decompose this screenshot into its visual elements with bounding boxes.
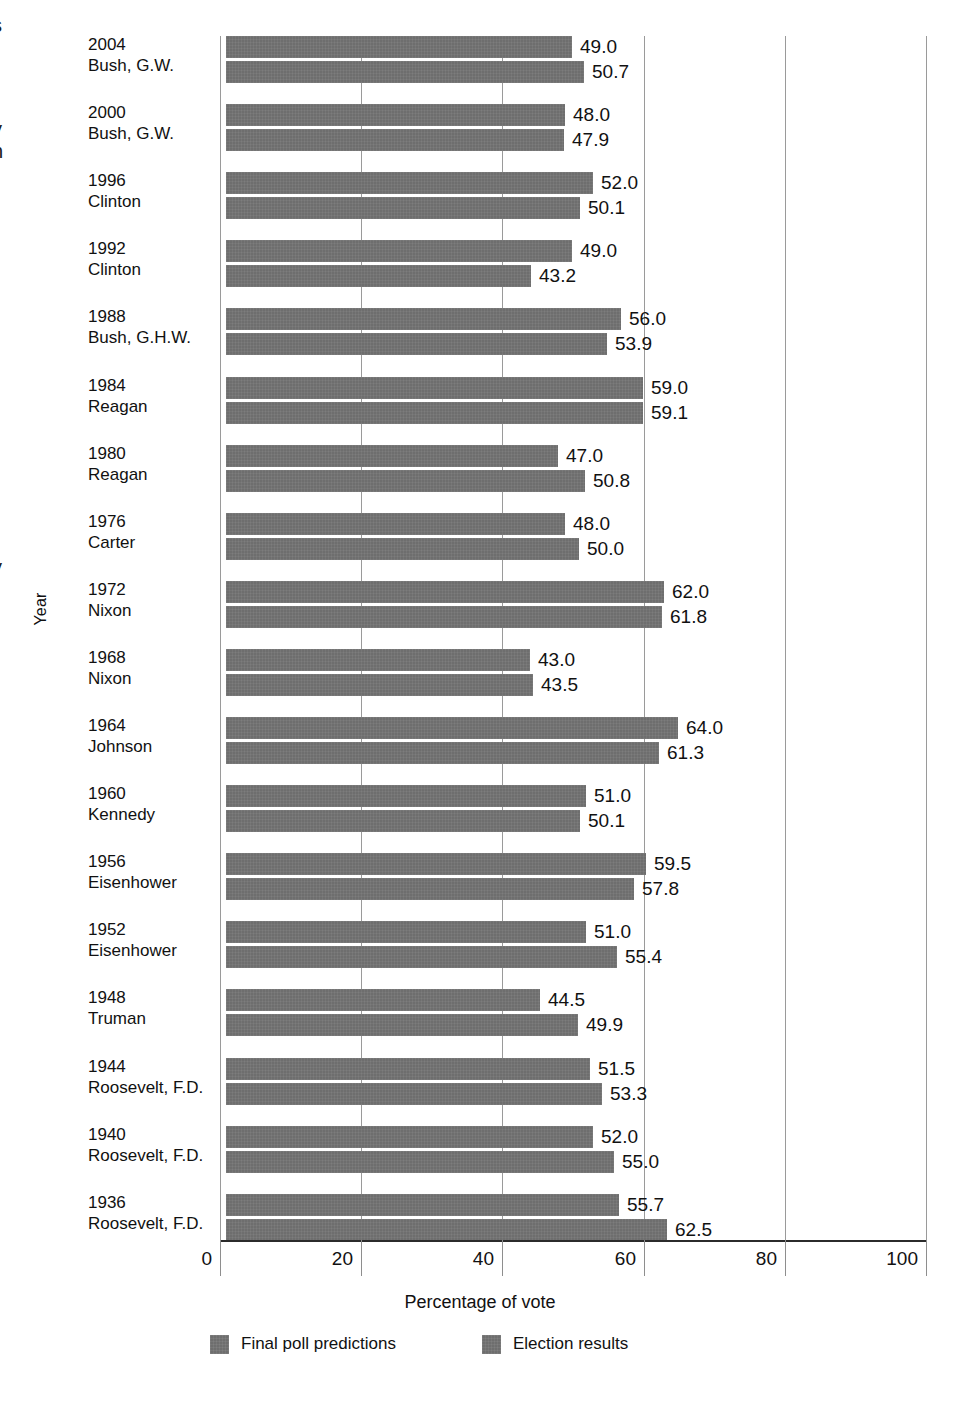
bar [226, 1014, 578, 1036]
bar [226, 308, 621, 330]
bar-value-label: 50.0 [587, 538, 624, 560]
x-tick-100 [926, 1240, 927, 1276]
bar-value-label: 49.9 [586, 1014, 623, 1036]
x-tick-label-20: 20 [293, 1248, 353, 1270]
category-president: Eisenhower [88, 940, 218, 961]
category-president: Nixon [88, 668, 218, 689]
category-president: Reagan [88, 396, 218, 417]
bar-value-label: 51.5 [598, 1058, 635, 1080]
gridline-0 [220, 36, 221, 1240]
bar-value-label: 53.9 [615, 333, 652, 355]
bar-value-label: 52.0 [601, 172, 638, 194]
bar [226, 1058, 590, 1080]
category-president: Carter [88, 532, 218, 553]
bar-value-label: 43.2 [539, 265, 576, 287]
bar [226, 581, 664, 603]
bar [226, 104, 565, 126]
bar-value-label: 56.0 [629, 308, 666, 330]
category-label: 1988Bush, G.H.W. [88, 306, 218, 348]
category-president: Roosevelt, F.D. [88, 1077, 218, 1098]
chart-legend: Final poll predictionsElection results [210, 1334, 810, 1354]
legend-label: Final poll predictions [241, 1334, 396, 1354]
category-year: 1960 [88, 783, 218, 804]
bar-value-label: 50.1 [588, 810, 625, 832]
category-year: 1980 [88, 443, 218, 464]
category-year: 1936 [88, 1192, 218, 1213]
category-president: Bush, G.W. [88, 55, 218, 76]
category-year: 1984 [88, 375, 218, 396]
category-label: 1956Eisenhower [88, 851, 218, 893]
category-year: 1976 [88, 511, 218, 532]
bar [226, 674, 533, 696]
category-year: 1988 [88, 306, 218, 327]
bar [226, 513, 565, 535]
bar-value-label: 62.5 [675, 1219, 712, 1241]
bar-value-label: 44.5 [548, 989, 585, 1011]
bar [226, 853, 646, 875]
category-president: Reagan [88, 464, 218, 485]
bar-value-label: 55.4 [625, 946, 662, 968]
category-year: 1968 [88, 647, 218, 668]
category-president: Johnson [88, 736, 218, 757]
bar-value-label: 50.1 [588, 197, 625, 219]
bar-value-label: 47.9 [572, 129, 609, 151]
x-tick-label-60: 60 [576, 1248, 636, 1270]
bar [226, 878, 634, 900]
bar [226, 470, 585, 492]
category-president: Roosevelt, F.D. [88, 1145, 218, 1166]
category-label: 2000Bush, G.W. [88, 102, 218, 144]
category-label: 1936Roosevelt, F.D. [88, 1192, 218, 1234]
category-label: 1976Carter [88, 511, 218, 553]
bar-value-label: 52.0 [601, 1126, 638, 1148]
bar-value-label: 50.7 [592, 61, 629, 83]
category-president: Eisenhower [88, 872, 218, 893]
bar [226, 445, 558, 467]
category-president: Roosevelt, F.D. [88, 1213, 218, 1234]
bar [226, 921, 586, 943]
category-year: 1948 [88, 987, 218, 1008]
bar [226, 129, 564, 151]
bar [226, 197, 580, 219]
bar [226, 377, 643, 399]
category-president: Clinton [88, 191, 218, 212]
bar-value-label: 49.0 [580, 36, 617, 58]
legend-label: Election results [513, 1334, 628, 1354]
category-year: 1952 [88, 919, 218, 940]
category-label: 1968Nixon [88, 647, 218, 689]
category-year: 1940 [88, 1124, 218, 1145]
bar-value-label: 61.3 [667, 742, 704, 764]
category-president: Kennedy [88, 804, 218, 825]
category-year: 2004 [88, 34, 218, 55]
bar-value-label: 59.1 [651, 402, 688, 424]
bar-value-label: 59.0 [651, 377, 688, 399]
category-president: Bush, G.W. [88, 123, 218, 144]
gridline-80 [785, 36, 786, 1240]
bar-value-label: 50.8 [593, 470, 630, 492]
category-year: 2000 [88, 102, 218, 123]
bar-value-label: 43.0 [538, 649, 575, 671]
x-tick-40 [502, 1240, 503, 1276]
x-tick-label-80: 80 [717, 1248, 777, 1270]
bar-value-label: 53.3 [610, 1083, 647, 1105]
x-tick-0 [220, 1240, 221, 1276]
x-tick-label-0: 0 [152, 1248, 212, 1270]
bar [226, 649, 530, 671]
category-label: 1980Reagan [88, 443, 218, 485]
x-axis-title: Percentage of vote [0, 1292, 960, 1313]
bar-value-label: 55.7 [627, 1194, 664, 1216]
category-year: 1964 [88, 715, 218, 736]
bar-chart-plot-area: 49.050.748.047.952.050.149.043.256.053.9… [0, 0, 960, 1402]
bar-value-label: 48.0 [573, 513, 610, 535]
x-tick-label-100: 100 [858, 1248, 918, 1270]
category-label: 1952Eisenhower [88, 919, 218, 961]
bar [226, 717, 678, 739]
bar-value-label: 43.5 [541, 674, 578, 696]
category-president: Nixon [88, 600, 218, 621]
bar [226, 538, 579, 560]
gridline-60 [644, 36, 645, 1240]
bar [226, 1194, 619, 1216]
bar-value-label: 49.0 [580, 240, 617, 262]
bar-value-label: 61.8 [670, 606, 707, 628]
category-label: 1940Roosevelt, F.D. [88, 1124, 218, 1166]
bar-value-label: 57.8 [642, 878, 679, 900]
